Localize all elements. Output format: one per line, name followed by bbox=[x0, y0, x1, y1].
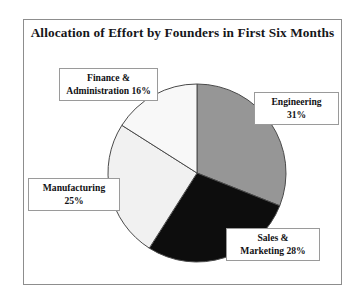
pie-label-finance-administration: Finance & Administration 16% bbox=[59, 68, 158, 101]
pie-label-engineering-line2: 31% bbox=[260, 109, 333, 122]
pie-label-manufacturing-line1: Manufacturing bbox=[43, 182, 105, 193]
pie-label-finance-line2: Administration 16% bbox=[65, 85, 152, 98]
pie-label-sales-marketing: Sales & Marketing 28% bbox=[226, 228, 320, 261]
pie-label-sales-line1: Sales & bbox=[257, 232, 288, 243]
pie-label-manufacturing-line2: 25% bbox=[34, 195, 114, 208]
pie-chart-figure: Allocation of Effort by Founders in Firs… bbox=[0, 0, 362, 304]
pie-label-finance-line1: Finance & bbox=[87, 72, 130, 83]
pie-label-engineering: Engineering 31% bbox=[254, 92, 339, 125]
pie-label-engineering-line1: Engineering bbox=[271, 96, 321, 107]
pie-label-manufacturing: Manufacturing 25% bbox=[28, 178, 120, 211]
pie-label-sales-line2: Marketing 28% bbox=[232, 245, 314, 258]
